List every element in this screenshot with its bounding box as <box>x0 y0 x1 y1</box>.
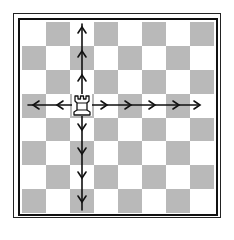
board-square <box>94 22 118 46</box>
board-square <box>22 70 46 94</box>
board-square <box>118 46 142 70</box>
board-square <box>190 22 214 46</box>
board-square <box>190 118 214 142</box>
board-square <box>190 46 214 70</box>
board-square <box>94 118 118 142</box>
board-square <box>118 189 142 213</box>
board-square <box>166 189 190 213</box>
board-square <box>70 189 94 213</box>
board-square <box>118 141 142 165</box>
board-square <box>118 165 142 189</box>
board-square <box>190 94 214 118</box>
board-square <box>142 165 166 189</box>
board-square <box>22 46 46 70</box>
board-square <box>94 141 118 165</box>
board-square <box>46 118 70 142</box>
board-square <box>190 70 214 94</box>
board-square <box>190 165 214 189</box>
board-square <box>166 118 190 142</box>
board-square <box>166 22 190 46</box>
board-square <box>142 189 166 213</box>
board-square <box>190 189 214 213</box>
board-square <box>70 141 94 165</box>
board-square <box>46 189 70 213</box>
board-square <box>46 46 70 70</box>
board-square <box>142 22 166 46</box>
board-square <box>22 22 46 46</box>
board-square <box>70 94 94 118</box>
board-square <box>22 94 46 118</box>
board-square <box>46 70 70 94</box>
board-square <box>70 165 94 189</box>
board-square <box>166 141 190 165</box>
board-square <box>70 70 94 94</box>
board-square <box>166 94 190 118</box>
board-square <box>190 141 214 165</box>
board-square <box>22 189 46 213</box>
board-square <box>142 141 166 165</box>
board-square <box>118 22 142 46</box>
board-square <box>94 70 118 94</box>
board-square <box>22 165 46 189</box>
board-square <box>94 94 118 118</box>
board-square <box>142 46 166 70</box>
chess-board <box>22 22 214 213</box>
board-square <box>118 70 142 94</box>
board-square <box>46 141 70 165</box>
board-square <box>94 165 118 189</box>
board-square <box>46 22 70 46</box>
board-square <box>142 70 166 94</box>
board-square <box>22 118 46 142</box>
board-square <box>70 22 94 46</box>
board-square <box>142 118 166 142</box>
board-square <box>70 118 94 142</box>
board-square <box>166 46 190 70</box>
board-square <box>70 46 94 70</box>
board-square <box>142 94 166 118</box>
board-square <box>22 141 46 165</box>
board-square <box>166 165 190 189</box>
board-square <box>94 189 118 213</box>
board-square <box>46 165 70 189</box>
board-square <box>94 46 118 70</box>
board-square <box>118 118 142 142</box>
board-square <box>118 94 142 118</box>
board-square <box>46 94 70 118</box>
board-square <box>166 70 190 94</box>
